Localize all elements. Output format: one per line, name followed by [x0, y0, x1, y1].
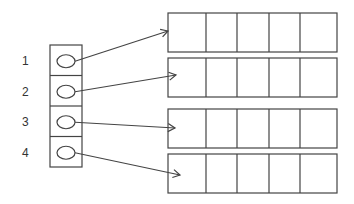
target-array-4	[168, 154, 337, 193]
target-array-1	[168, 13, 337, 52]
pointer-oval	[57, 85, 75, 98]
pointer-arrow	[75, 31, 168, 61]
target-array-frame	[168, 154, 337, 193]
pointer-oval	[57, 55, 75, 68]
pointer-oval	[57, 116, 75, 129]
pointer-oval	[57, 146, 75, 159]
pointer-arrow	[75, 122, 175, 128]
index-label: 2	[22, 85, 29, 99]
index-label: 4	[22, 146, 29, 160]
target-array-frame	[168, 13, 337, 52]
pointer-arrow	[75, 75, 176, 92]
target-array-frame	[168, 58, 337, 97]
target-array-3	[168, 109, 337, 148]
index-label: 1	[22, 54, 29, 68]
diagram-canvas: 1234	[0, 0, 354, 204]
index-label: 3	[22, 115, 29, 129]
pointer-arrow	[75, 153, 180, 175]
target-array-frame	[168, 109, 337, 148]
target-array-2	[168, 58, 337, 97]
